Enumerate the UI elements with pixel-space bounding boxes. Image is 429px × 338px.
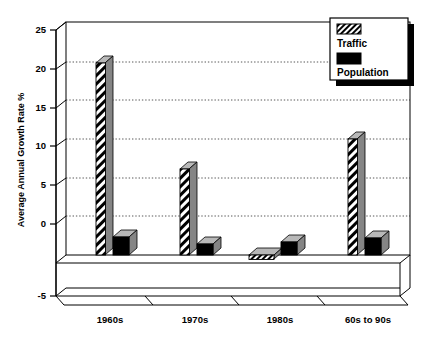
x-label-1960s: 1960s — [97, 314, 123, 325]
legend-label-population: Population — [337, 67, 389, 78]
x-label-1970s: 1970s — [182, 314, 208, 325]
bar-side-face — [357, 132, 365, 255]
y-tick-label-25: 25 — [35, 24, 46, 35]
bar-front-face — [180, 169, 190, 255]
legend[interactable]: Traffic Population — [330, 18, 414, 86]
bar-front-face — [249, 255, 274, 260]
legend-label-traffic: Traffic — [337, 38, 367, 49]
x-label-1980s: 1980s — [267, 314, 293, 325]
bar-side-face — [189, 162, 197, 255]
y-tick-label-10: 10 — [35, 140, 46, 151]
bar-traffic-60s-to-90s — [348, 132, 365, 255]
bar-front-face — [365, 238, 381, 255]
legend-swatch-traffic-icon — [337, 24, 361, 34]
legend-swatch-population-icon — [337, 53, 361, 64]
y-tick-label-0: 0 — [41, 218, 46, 229]
y-tick-label-neg5: -5 — [38, 290, 47, 301]
bar-chart: Average Annual Growth Rate % — [0, 0, 429, 338]
y-tick-label-15: 15 — [35, 102, 46, 113]
bar-front-face — [96, 63, 106, 255]
y-axis-title-text: Average Annual Growth Rate % — [16, 93, 26, 227]
bar-front-face — [348, 139, 358, 255]
y-tick-label-20: 20 — [35, 63, 46, 74]
bar-traffic-1970s — [180, 162, 197, 255]
y-tick-label-5: 5 — [41, 179, 47, 190]
bar-front-face — [281, 242, 297, 255]
bar-traffic-1960s — [96, 56, 113, 255]
chart-canvas: Average Annual Growth Rate % — [0, 0, 429, 338]
bar-front-face — [197, 244, 213, 255]
bar-population-1960s — [113, 230, 137, 255]
bar-front-face — [113, 237, 129, 255]
bar-population-60s-to-90s — [365, 231, 389, 255]
bar-side-face — [105, 56, 113, 255]
x-label-60s-to-90s: 60s to 90s — [345, 314, 391, 325]
y-axis-title: Average Annual Growth Rate % — [16, 93, 26, 227]
